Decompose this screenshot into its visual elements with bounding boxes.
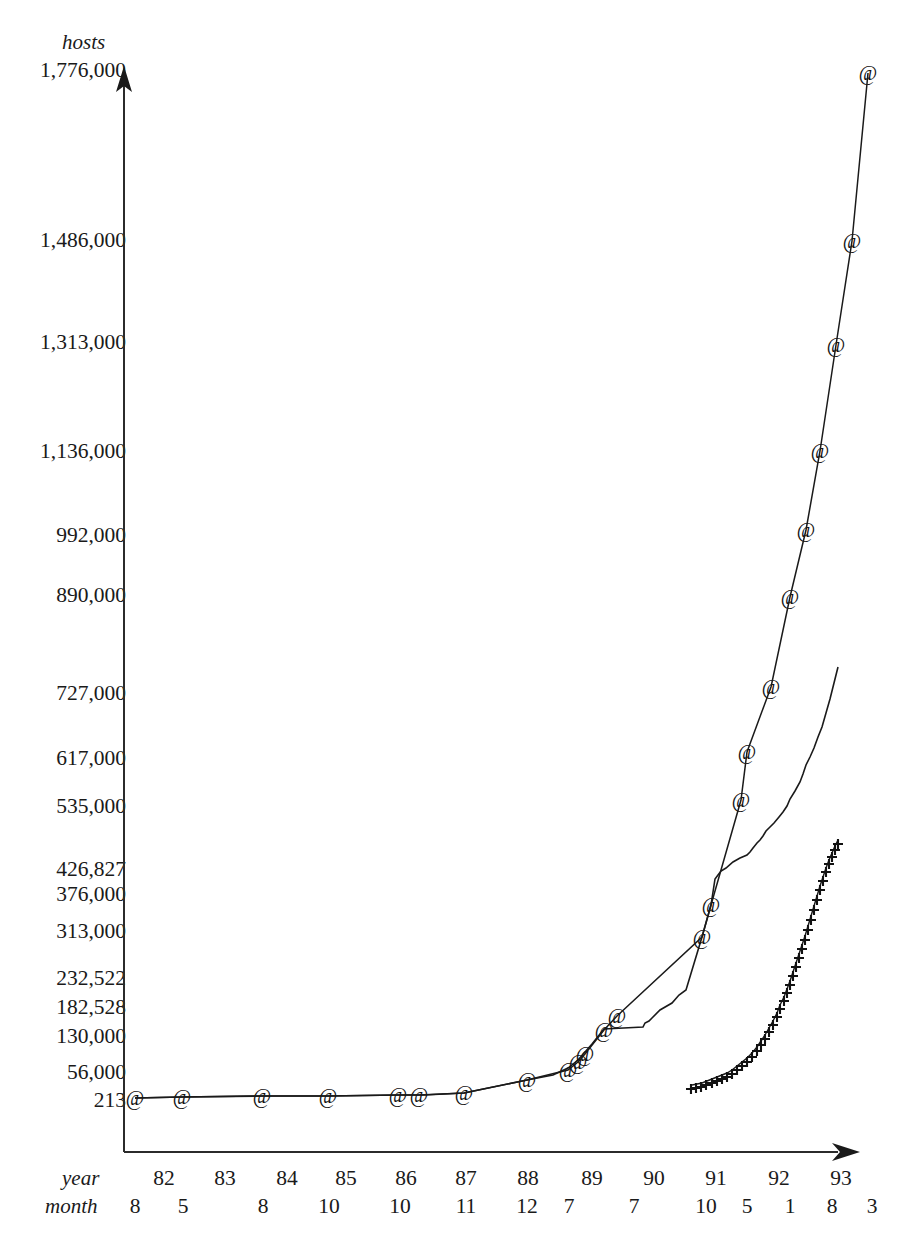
x-tick-month: 8 [121,1194,149,1219]
x-tick-year: 83 [209,1166,241,1191]
plot-area: @ @ @ @ @ @ @ @ @ @ @ @ @ @ @ @ @ @ @ @ … [0,0,901,1233]
series-hosts-connector [135,73,868,1098]
x-tick-year: 84 [271,1166,303,1191]
y-axis [116,66,132,1152]
x-tick-month: 10 [384,1194,416,1219]
x-tick-year: 82 [148,1166,180,1191]
x-tick-year: 90 [638,1166,670,1191]
x-tick-month: 1 [776,1194,804,1219]
x-tick-month: 5 [733,1194,761,1219]
x-tick-month: 7 [555,1194,583,1219]
x-tick-month: 11 [450,1194,482,1219]
x-tick-year: 88 [512,1166,544,1191]
series-domains-markers [686,839,843,1094]
series-domains-line [692,840,838,1085]
x-tick-month: 12 [511,1194,543,1219]
x-tick-year: 91 [700,1166,732,1191]
x-tick-year: 85 [330,1166,362,1191]
x-tick-month: 10 [313,1194,345,1219]
x-tick-year: 89 [576,1166,608,1191]
x-tick-year: 86 [390,1166,422,1191]
x-axis-row-label-month: month [45,1194,98,1219]
x-tick-year: 93 [825,1166,857,1191]
x-tick-month: 7 [620,1194,648,1219]
x-axis [124,1143,860,1161]
x-tick-year: 87 [450,1166,482,1191]
x-tick-month: 3 [858,1194,886,1219]
series-hosts-markers: @ @ @ @ @ @ @ @ @ @ @ @ @ @ @ @ @ @ @ @ … [126,62,877,1110]
series-hosts-line [135,667,838,1098]
x-tick-month: 8 [818,1194,846,1219]
x-tick-month: 5 [169,1194,197,1219]
x-tick-month: 8 [249,1194,277,1219]
chart-container: hosts 1,776,000 1,486,000 1,313,000 1,13… [0,0,901,1233]
x-tick-year: 92 [763,1166,795,1191]
x-tick-month: 10 [690,1194,722,1219]
x-axis-row-label-year: year [62,1166,99,1191]
